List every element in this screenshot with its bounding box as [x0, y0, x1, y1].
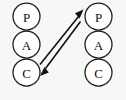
- left-pac-agent: P A C: [13, 3, 40, 86]
- node-left-abstraction-label: A: [22, 38, 32, 53]
- node-left-control-label: C: [22, 66, 31, 81]
- node-left-presentation-label: P: [23, 10, 30, 25]
- node-right-abstraction-label: A: [94, 38, 104, 53]
- pac-diagram: P A C P A C: [0, 0, 126, 100]
- arrow-presentation-to-control[interactable]: [40, 22, 81, 77]
- arrow-up-shaft: [40, 17, 79, 65]
- arrow-up-head: [75, 10, 84, 19]
- diagram-canvas: P A C P A C: [0, 0, 126, 100]
- node-right-control-label: C: [94, 66, 103, 81]
- arrow-control-to-presentation[interactable]: [40, 10, 84, 65]
- arrow-down-head: [40, 67, 49, 76]
- right-pac-agent: P A C: [85, 3, 112, 86]
- arrow-down-shaft: [46, 22, 81, 69]
- node-right-presentation-label: P: [95, 10, 102, 25]
